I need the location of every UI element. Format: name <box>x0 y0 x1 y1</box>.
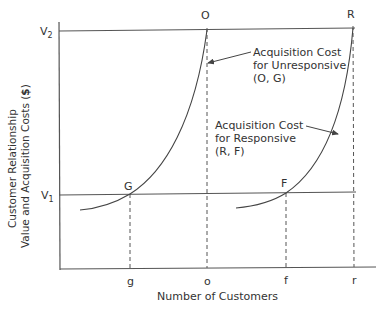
unresponsive-annotation: Acquisition Cost for Unresponsive (O, G) <box>253 46 346 85</box>
x-axis <box>60 267 376 269</box>
x-tick-g: g <box>127 275 134 288</box>
x-tick-r: r <box>352 274 357 287</box>
r-dashed-line <box>353 26 354 267</box>
point-o-label: O <box>201 9 210 22</box>
svg-text:Acquisition Cost: Acquisition Cost <box>253 46 342 59</box>
svg-text:(R, F): (R, F) <box>215 145 245 158</box>
x-axis-label: Number of Customers <box>157 290 278 303</box>
v2-label: V2 <box>40 25 53 40</box>
point-r-label: R <box>347 8 355 21</box>
unresponsive-cost-curve <box>80 30 207 210</box>
acquisition-cost-diagram: V2 V1 O R G F g o f r Number of Customer… <box>0 0 388 312</box>
svg-text:for Unresponsive: for Unresponsive <box>253 59 346 72</box>
svg-text:(O, G): (O, G) <box>253 72 286 85</box>
svg-text:Value and Acquisition Costs ($: Value and Acquisition Costs ($) <box>19 84 31 248</box>
x-tick-o: o <box>204 275 211 288</box>
x-tick-f: f <box>284 274 289 287</box>
point-g-label: G <box>124 180 133 193</box>
svg-text:Customer Relationship: Customer Relationship <box>6 109 18 228</box>
v1-label: V1 <box>41 189 54 204</box>
svg-text:for Responsive: for Responsive <box>215 132 296 145</box>
y-axis-label: Customer Relationship Value and Acquisit… <box>6 84 31 248</box>
y-axis <box>59 22 60 270</box>
svg-text:Acquisition Cost: Acquisition Cost <box>215 119 304 132</box>
point-f-label: F <box>281 177 287 190</box>
unresponsive-arrow <box>208 52 251 63</box>
responsive-annotation: Acquisition Cost for Responsive (R, F) <box>215 119 304 158</box>
